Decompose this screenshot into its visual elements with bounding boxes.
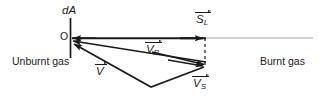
unburnt-gas-label: Unburnt gas bbox=[12, 56, 69, 67]
vector-diagram-figure: dA O Unburnt gas Burnt gas SL VP V VS bbox=[0, 0, 319, 103]
origin-label: O bbox=[60, 31, 68, 42]
diagram-canvas bbox=[0, 0, 319, 103]
area-element-label: dA bbox=[62, 5, 76, 17]
v-vector bbox=[74, 44, 204, 87]
vs-vector bbox=[152, 52, 204, 65]
v-vector-label: V bbox=[96, 66, 104, 78]
vp-vector-label: VP bbox=[146, 44, 159, 57]
vs-vector-label: VS bbox=[193, 78, 206, 91]
vp-vector bbox=[73, 41, 206, 62]
burnt-gas-label: Burnt gas bbox=[260, 56, 305, 67]
sl-vector-label: SL bbox=[196, 14, 208, 27]
